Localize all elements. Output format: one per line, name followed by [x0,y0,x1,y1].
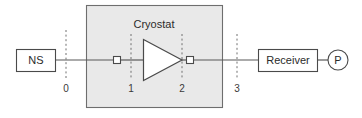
connector-square-2[interactable] [187,57,194,64]
diagram-canvas: Cryostat 0 1 2 3 NS Receiver P [0,0,362,118]
noise-source-label: NS [28,54,43,66]
connector-square-1[interactable] [114,57,121,64]
receiver-label: Receiver [266,54,310,66]
reference-plane-label-0: 0 [63,83,69,94]
cryostat-title: Cryostat [134,18,175,30]
reference-plane-label-1: 1 [128,83,134,94]
cryostat-measurement-diagram: Cryostat 0 1 2 3 NS Receiver P [0,0,362,118]
reference-plane-label-3: 3 [234,83,240,94]
reference-plane-label-2: 2 [179,83,185,94]
power-port-label: P [334,54,341,66]
